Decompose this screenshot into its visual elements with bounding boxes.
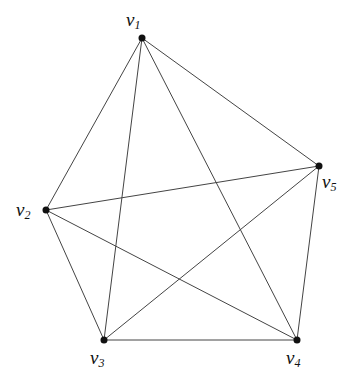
edge-v1-v2 [46,38,142,210]
node-v5 [316,163,323,170]
node-label-v4: v4 [286,348,300,369]
edge-v2-v3 [46,210,104,340]
graph-edges [0,0,350,378]
node-label-v1: v1 [126,10,140,31]
edge-v1-v5 [142,38,319,166]
node-v3 [101,337,108,344]
edge-v4-v5 [297,166,319,340]
edge-v3-v5 [104,166,319,340]
graph-diagram: v1v2v3v4v5 [0,0,350,378]
edge-v2-v5 [46,166,319,210]
node-label-v2: v2 [16,200,30,221]
node-v4 [294,337,301,344]
node-label-v3: v3 [90,348,104,369]
node-v2 [43,207,50,214]
edge-v1-v3 [104,38,142,340]
node-label-v5: v5 [322,172,336,193]
node-v1 [139,35,146,42]
edge-v1-v4 [142,38,297,340]
edge-v2-v4 [46,210,297,340]
